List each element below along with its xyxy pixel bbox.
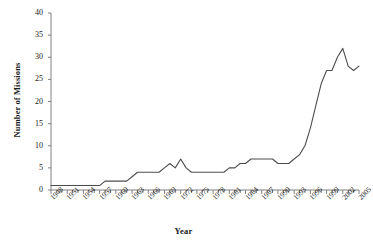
y-tick-label: 20	[17, 98, 43, 106]
y-tick-label: 5	[17, 164, 43, 172]
y-tick-label: 25	[17, 75, 43, 83]
y-tick-label: 40	[17, 9, 43, 17]
y-tick-label: 35	[17, 31, 43, 39]
y-tick-label: 15	[17, 120, 43, 128]
y-tick-label: 10	[17, 142, 43, 150]
y-tick-label: 0	[17, 186, 43, 194]
y-tick-label: 30	[17, 53, 43, 61]
